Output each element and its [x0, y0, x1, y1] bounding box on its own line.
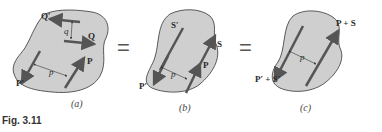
label-p-c: p	[299, 52, 305, 62]
label-S: S	[217, 39, 222, 49]
equals-sign-2: =	[239, 35, 252, 60]
caption-a: (a)	[71, 98, 83, 110]
label-S-prime: S′	[171, 20, 179, 30]
label-Q: Q	[88, 31, 95, 41]
label-P-prime-plus-S-prime: P′ + S′	[255, 74, 280, 84]
panel-b: S′ S P P′ p (b)	[139, 10, 222, 114]
label-P: P	[87, 56, 93, 66]
caption-b: (b)	[179, 102, 191, 114]
couple-equivalence-diagram: Q′ Q q P P′ p (a) = S′ S P P′ p (b) = P …	[0, 0, 382, 132]
label-p-b: p	[170, 69, 176, 79]
label-q: q	[64, 26, 69, 36]
label-p-a: p	[48, 67, 54, 77]
rigid-body-a	[13, 10, 108, 92]
label-P-b: P	[203, 60, 209, 70]
rigid-body-c	[272, 11, 342, 91]
label-P-plus-S: P + S	[336, 18, 356, 28]
figure-caption: Fig. 3.11	[2, 115, 41, 126]
panel-a: Q′ Q q P P′ p (a)	[13, 10, 108, 110]
label-Q-prime: Q′	[41, 11, 51, 21]
panel-c: P + S P′ + S′ p (c)	[255, 11, 356, 114]
caption-c: (c)	[300, 102, 312, 114]
label-P-prime-b: P′	[139, 81, 147, 91]
equals-sign-1: =	[117, 35, 130, 60]
label-P-prime: P′	[16, 78, 24, 88]
